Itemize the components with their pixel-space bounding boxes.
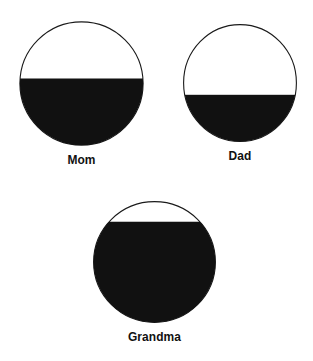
dad-dial: [183, 24, 297, 142]
mom-dial: [19, 21, 144, 146]
grandma-dial-svg: [93, 201, 216, 323]
mom-fill-region: [19, 79, 144, 147]
dad-dial-svg: [183, 24, 297, 142]
figure-label-dad: Dad: [188, 149, 293, 162]
grandma-fill-region: [93, 222, 216, 323]
grandma-dial: [93, 201, 216, 323]
figure-label-mom: Mom: [24, 153, 139, 166]
figure-label-grandma: Grandma: [98, 330, 211, 343]
mom-dial-svg: [19, 21, 144, 146]
dad-fill-region: [183, 95, 297, 142]
diagram-canvas: Mom Dad: [0, 0, 313, 361]
